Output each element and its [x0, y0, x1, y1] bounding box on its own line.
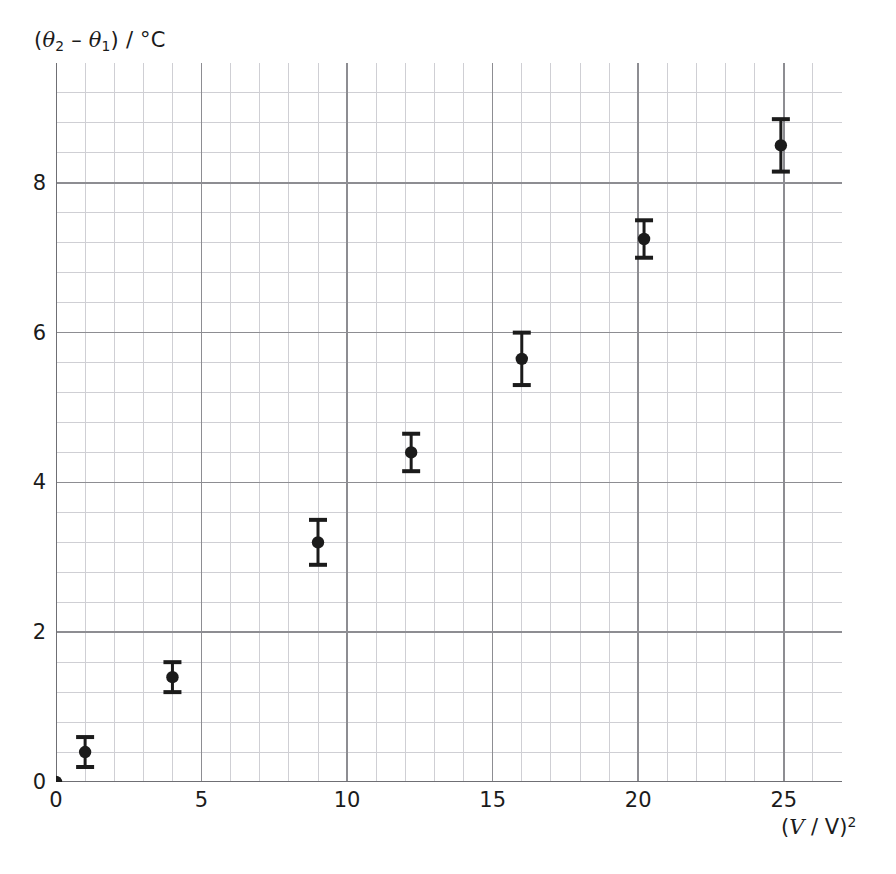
y-tick-label: 2: [6, 622, 46, 643]
y-tick-label: 6: [6, 322, 46, 343]
y-tick-label-group: 02468: [0, 63, 46, 782]
y-axis-label-sub-1: 1: [102, 38, 111, 54]
data-point: [772, 119, 790, 171]
y-axis-label-theta2: θ: [42, 28, 55, 52]
plot-area: [56, 63, 842, 782]
x-tick-label: 15: [463, 790, 523, 811]
data-point: [309, 520, 327, 565]
x-tick-label: 5: [172, 790, 232, 811]
data-point: [56, 776, 62, 782]
data-point-marker: [405, 446, 417, 458]
data-point-marker: [638, 233, 650, 245]
y-axis-label: (θ2 – θ1) / °C: [34, 30, 166, 54]
x-axis-label-exponent: 2: [847, 814, 856, 830]
data-point-marker: [312, 536, 324, 548]
data-point: [163, 662, 181, 692]
y-tick-label: 4: [6, 472, 46, 493]
data-point: [635, 220, 653, 257]
y-axis-label-units: ) / °C: [111, 28, 166, 52]
x-tick-label: 0: [26, 790, 86, 811]
data-point-marker: [56, 776, 62, 782]
x-tick-label: 20: [608, 790, 668, 811]
graph-figure: (θ2 – θ1) / °C (V / V)2 02468 0510152025: [0, 0, 896, 874]
y-tick-label: 8: [6, 172, 46, 193]
data-point-marker: [775, 139, 787, 151]
data-point-marker: [79, 746, 91, 758]
data-point: [513, 333, 531, 385]
data-point-marker: [166, 671, 178, 683]
y-axis-label-theta1: θ: [89, 28, 102, 52]
y-axis-label-minus: –: [64, 28, 88, 52]
data-point: [76, 737, 94, 767]
x-tick-label: 25: [754, 790, 814, 811]
data-point: [402, 434, 420, 471]
data-points-layer: [56, 63, 842, 782]
x-tick-label-group: 0510152025: [56, 790, 842, 820]
data-point-marker: [516, 353, 528, 365]
y-axis-label-sub-2: 2: [55, 38, 64, 54]
x-tick-label: 10: [317, 790, 377, 811]
